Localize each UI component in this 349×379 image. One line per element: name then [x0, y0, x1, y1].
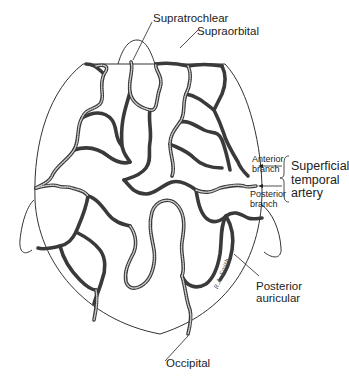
supratrochlear-leader [133, 22, 152, 60]
label-supraorbital: Supraorbital [197, 25, 259, 37]
label-anterior-branch: Anterior branch [252, 155, 284, 174]
posterior-branch-arrowhead [258, 184, 263, 188]
posterior-auricular-leader [234, 254, 259, 276]
label-posterior-auricular: Posterior auricular [256, 280, 302, 304]
superficial-temporal-line-3: artery [291, 187, 349, 201]
label-superficial-temporal-artery: Superficial temporal artery [291, 160, 349, 201]
nose-outline [118, 40, 155, 64]
vessel-network [36, 62, 262, 334]
label-supratrochlear: Supratrochlear [153, 12, 228, 24]
superficial-temporal-line-2: temporal [291, 174, 349, 188]
posterior-branch-line-2: branch [250, 200, 286, 210]
left-ear-outline [20, 200, 34, 253]
posterior-auricular-line-1: Posterior [256, 280, 302, 292]
anterior-branch-line-2: branch [252, 165, 284, 175]
right-ear-outline [262, 205, 281, 257]
superficial-temporal-line-1: Superficial [291, 160, 349, 174]
posterior-auricular-line-2: auricular [256, 292, 302, 304]
supraorbital-leader [180, 30, 198, 48]
label-occipital: Occipital [166, 357, 210, 369]
label-posterior-branch: Posterior branch [250, 190, 286, 209]
skull-outline [35, 64, 262, 334]
